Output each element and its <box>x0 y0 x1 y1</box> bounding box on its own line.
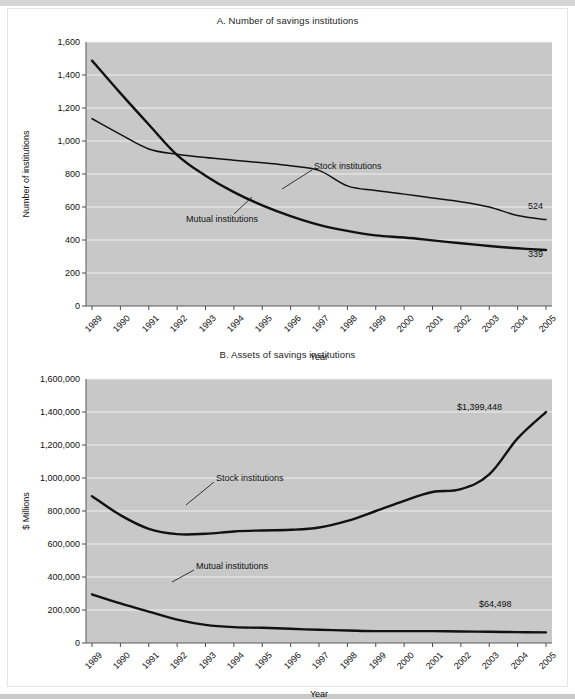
chart-b-end-label-stock: $1,399,448 <box>457 402 502 412</box>
y-axis-tick-label: 400 <box>65 235 80 245</box>
y-axis-tick-label: 1,000 <box>57 136 80 146</box>
y-axis-tick-label: 600 <box>65 202 80 212</box>
figure-paper: A. Number of savings institutions Number… <box>8 9 567 686</box>
chart-b-x-axis-label: Year <box>86 689 552 699</box>
series-line-mutual-institutions <box>92 594 546 632</box>
annotation-leader-line <box>172 570 194 582</box>
chart-b-end-label-mutual: $64,498 <box>479 599 512 609</box>
chart-b-assets-of-savings-institutions: B. Assets of savings institutions $ Mill… <box>8 349 567 681</box>
y-axis-tick-label: 1,600 <box>57 37 80 47</box>
annotation-leader-line <box>234 197 252 214</box>
chart-a-end-label-mutual: 339 <box>528 249 543 259</box>
y-axis-tick-label: 800 <box>65 169 80 179</box>
y-axis-tick-label: 1,400 <box>57 70 80 80</box>
chart-b-series-label-mutual: Mutual institutions <box>196 561 268 571</box>
y-axis-tick-label: 600,000 <box>47 539 80 549</box>
chart-a-series-label-stock: Stock institutions <box>314 161 382 171</box>
chart-b-series-label-stock: Stock institutions <box>216 473 284 483</box>
chart-a-title: A. Number of savings institutions <box>8 15 567 26</box>
y-axis-tick-label: 0 <box>75 638 80 648</box>
chart-a-svg <box>86 42 552 306</box>
annotation-leader-line <box>186 482 214 505</box>
y-axis-tick-label: 200,000 <box>47 605 80 615</box>
y-axis-tick-label: 1,200,000 <box>40 440 80 450</box>
series-line-mutual-institutions <box>92 61 546 250</box>
series-line-stock-institutions <box>92 412 546 534</box>
y-axis-tick-label: 400,000 <box>47 572 80 582</box>
y-axis-tick-label: 1,400,000 <box>40 407 80 417</box>
y-axis-tick-label: 200 <box>65 268 80 278</box>
chart-a-number-of-savings-institutions: A. Number of savings institutions Number… <box>8 15 567 345</box>
chart-a-end-label-stock: 524 <box>528 201 543 211</box>
chart-b-y-axis-label: $ Millions <box>21 492 31 530</box>
y-axis-tick-label: 0 <box>75 301 80 311</box>
chart-b-title: B. Assets of savings institutions <box>8 349 567 360</box>
y-axis-tick-label: 1,000,000 <box>40 473 80 483</box>
y-axis-tick-label: 1,600,000 <box>40 374 80 384</box>
chart-a-plot-area <box>86 42 552 306</box>
chart-a-series-label-mutual: Mutual institutions <box>186 214 258 224</box>
y-axis-tick-label: 1,200 <box>57 103 80 113</box>
annotation-leader-line <box>282 170 312 189</box>
y-axis-tick-label: 800,000 <box>47 506 80 516</box>
chart-a-y-axis-label: Number of institutions <box>21 130 31 217</box>
